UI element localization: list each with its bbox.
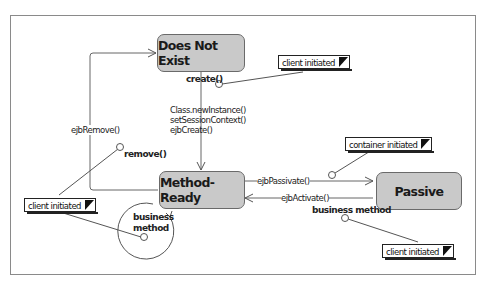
remove-event-label: remove() xyxy=(124,149,166,159)
note-remove-client-initiated: client initiated xyxy=(24,198,96,212)
call-setsessioncontext: setSessionContext() xyxy=(170,115,246,125)
state-label: Method-Ready xyxy=(160,175,244,205)
note-create-client-initiated: client initiated xyxy=(278,55,350,69)
call-class-newinstance: Class.newInstance() xyxy=(170,105,246,115)
note-container-initiated: container initiated xyxy=(345,137,432,151)
state-does-not-exist: Does Not Exist xyxy=(157,34,245,72)
ejbpassivate-label: ejbPassivate() xyxy=(257,176,310,186)
state-method-ready: Method-Ready xyxy=(159,171,245,209)
ejbactivate-label: ejbActivate() xyxy=(281,193,329,203)
business-method-loop-label: business method xyxy=(133,212,174,234)
create-event-label: create() xyxy=(186,74,223,84)
create-call-sequence: Class.newInstance() setSessionContext() … xyxy=(170,105,246,135)
call-ejbcreate: ejbCreate() xyxy=(170,125,246,135)
note-passive-client-initiated: client initiated xyxy=(382,244,454,258)
state-label: Passive xyxy=(395,184,444,199)
state-label: Does Not Exist xyxy=(158,38,244,68)
business-method-passive-label: business method xyxy=(312,205,391,215)
ejbremove-label: ejbRemove() xyxy=(71,125,120,135)
